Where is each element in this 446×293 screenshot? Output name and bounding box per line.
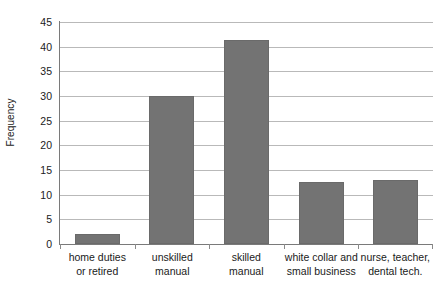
x-axis-category-label-line: dental tech.	[350, 264, 441, 278]
x-axis-category-label-line: nurse, teacher,	[361, 251, 430, 263]
x-axis-category-label-line: home duties	[69, 251, 126, 263]
x-axis-category-label-line: white collar and	[285, 251, 358, 263]
y-axis-tick-label: 5	[46, 213, 52, 225]
y-axis-title: Frequency	[0, 0, 20, 244]
y-axis-tick-label: 35	[40, 65, 52, 77]
y-axis-tick-label: 45	[40, 16, 52, 28]
y-axis-title-text: Frequency	[5, 98, 16, 146]
x-axis-tick	[209, 244, 210, 249]
bar	[373, 180, 418, 244]
x-axis-category-label-line: unskilled	[152, 251, 193, 263]
y-axis-tick-label: 25	[40, 115, 52, 127]
y-axis-tick-label: 20	[40, 139, 52, 151]
y-axis-tick-label: 0	[46, 238, 52, 250]
x-axis-tick	[358, 244, 359, 249]
y-axis-tick-label: 30	[40, 90, 52, 102]
x-axis-category-labels: home dutiesor retiredunskilledmanualskil…	[60, 250, 433, 290]
bar-chart: Frequency 454035302520151050 home duties…	[0, 0, 446, 293]
bars-layer	[60, 22, 433, 244]
y-axis-tick-label: 40	[40, 41, 52, 53]
bar	[149, 96, 194, 244]
y-axis-tick-label: 10	[40, 189, 52, 201]
bar	[224, 40, 269, 244]
plot-area	[60, 22, 433, 244]
x-axis-tick	[60, 244, 61, 249]
y-axis-tick-label: 15	[40, 164, 52, 176]
y-axis-tick-labels: 454035302520151050	[20, 0, 56, 293]
bar	[299, 182, 344, 244]
x-axis-tick	[284, 244, 285, 249]
x-axis-tick	[432, 244, 433, 249]
x-axis-category-label-line: skilled	[232, 251, 261, 263]
bar	[75, 234, 120, 244]
x-axis-tick	[135, 244, 136, 249]
x-axis-category-label: nurse, teacher,dental tech.	[350, 250, 441, 278]
